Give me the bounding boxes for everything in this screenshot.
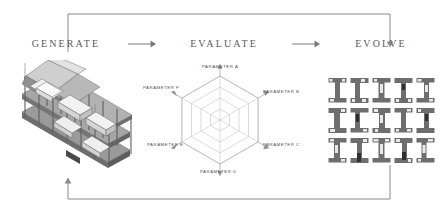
radar-label-parameter-b: PARAMETER B [263, 89, 300, 94]
beam-cell [415, 136, 436, 165]
beam-cell [415, 106, 436, 135]
arrow-evaluate-to-evolve [290, 37, 322, 51]
beam-cell [349, 76, 370, 105]
radar-spokes [182, 76, 258, 164]
beam-cell [393, 136, 414, 165]
beam-cell [349, 136, 370, 165]
stage-heading-generate: GENERATE [18, 38, 114, 49]
beam-cell [393, 106, 414, 135]
generative-design-loop-diagram: GENERATE EVALUATE EVOLVE [0, 0, 445, 213]
beam-cell [327, 106, 348, 135]
arrow-generate-to-evaluate [126, 37, 158, 51]
beam-cell [415, 76, 436, 105]
radar-label-parameter-a: PARAMETER A [202, 64, 238, 69]
beam-cell [327, 76, 348, 105]
radar-label-parameter-d: PARAMETER D [200, 169, 237, 174]
radar-label-parameter-e: PARAMETER E [147, 142, 184, 147]
radar-label-parameter-c: PARAMETER C [263, 142, 300, 147]
beam-cell [393, 76, 414, 105]
beam-cell [371, 106, 392, 135]
evolve-beam-grid [327, 76, 436, 165]
beam-cell [371, 136, 392, 165]
stage-heading-evaluate: EVALUATE [172, 38, 276, 49]
beam-cell [371, 76, 392, 105]
evaluate-radar-visual [128, 58, 313, 183]
radar-chart-svg [128, 58, 313, 183]
beam-cell [349, 106, 370, 135]
radar-label-parameter-f: PARAMETER F [143, 85, 179, 90]
stage-heading-evolve: EVOLVE [336, 38, 426, 49]
beam-cell [327, 136, 348, 165]
